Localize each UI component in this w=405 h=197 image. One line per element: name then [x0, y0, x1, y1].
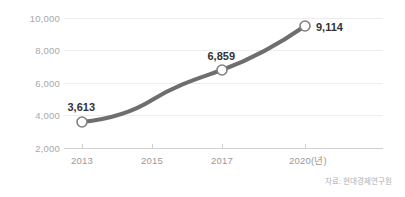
x-tick-label-2017: 2017: [211, 155, 233, 166]
data-point-2017[interactable]: [217, 65, 227, 75]
x-axis-labels: 2013 2015 2017 2020(년): [71, 155, 327, 166]
y-tick-label-8000: 8,000: [35, 45, 60, 56]
x-tick-label-2020: 2020(년): [289, 155, 327, 166]
x-tick-label-2013: 2013: [71, 155, 93, 166]
data-label-3613: 3,613: [67, 101, 95, 113]
y-tick-label-10000: 10,000: [30, 13, 60, 24]
data-point-2013[interactable]: [77, 117, 87, 127]
x-tick-label-2015: 2015: [141, 155, 163, 166]
data-markers: [77, 21, 310, 127]
y-tick-label-4000: 4,000: [35, 110, 60, 121]
source-attribution: 자료: 현대경제연구원: [325, 176, 392, 186]
x-tick-marks: [83, 144, 306, 149]
line-chart-figure: 10,000 8,000 6,000 4,000 2,000 2013 2015…: [0, 0, 405, 197]
data-label-9114: 9,114: [316, 21, 344, 33]
data-label-6859: 6,859: [207, 50, 235, 62]
y-tick-label-2000: 2,000: [35, 143, 60, 154]
data-point-2020[interactable]: [300, 21, 310, 31]
data-series-line: [82, 26, 305, 122]
data-point-labels: 3,613 6,859 9,114: [67, 21, 343, 113]
y-axis-labels: 10,000 8,000 6,000 4,000 2,000: [30, 13, 60, 154]
chart-canvas: 10,000 8,000 6,000 4,000 2,000 2013 2015…: [0, 0, 405, 197]
y-tick-label-6000: 6,000: [35, 78, 60, 89]
